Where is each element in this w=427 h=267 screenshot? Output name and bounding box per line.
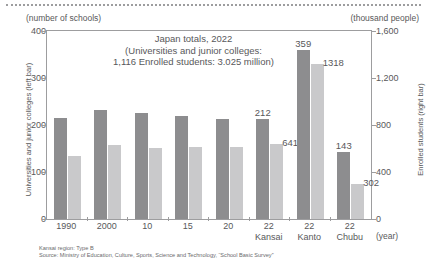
x-axis-label: 22Kansai (249, 221, 290, 243)
x-axis-label: 1990 (46, 221, 87, 232)
right-axis-unit-label: (thousand people) (350, 13, 419, 23)
x-axis-label: 10 (127, 221, 168, 232)
right-axis-tick-label: 0 (376, 214, 381, 224)
x-axis-label-year: 1990 (56, 221, 76, 231)
bar-universities[interactable] (135, 113, 148, 219)
x-axis-label-region: Kansai (249, 232, 290, 243)
chart-footnotes: Kansai region: Type B Source: Ministry o… (39, 245, 274, 259)
left-axis-tick-mark (42, 125, 46, 126)
bar-enrolled-students[interactable] (189, 147, 202, 219)
left-axis-unit-label: (number of schools) (26, 13, 101, 23)
bar-group (169, 31, 210, 219)
bar-group: 3591318 (290, 31, 331, 219)
bar-group (128, 31, 169, 219)
x-axis-unit-label: (year) (376, 231, 398, 241)
right-axis-tick-mark (372, 219, 376, 220)
bar-group (209, 31, 250, 219)
left-axis-title: Universities and junior colleges (left b… (24, 55, 33, 205)
x-axis-label: 22Kanto (289, 221, 330, 243)
bar-value-label-enrolled-students: 302 (363, 177, 393, 188)
bar-group: 212641 (250, 31, 291, 219)
bar-universities[interactable] (337, 152, 350, 219)
bars-layer: 2126413591318143302 (47, 31, 371, 219)
x-axis-tick-mark (330, 217, 331, 221)
x-axis-tick-mark (87, 217, 88, 221)
bar-value-label-universities: 359 (290, 38, 317, 49)
right-axis-title: Enrolled students (right bar) (416, 55, 425, 205)
x-axis-label-region: Kanto (289, 232, 330, 243)
right-axis-tick-label: 400 (376, 167, 391, 177)
x-axis-tick-mark (127, 217, 128, 221)
left-axis-tick-mark (42, 31, 46, 32)
x-axis-label-year: 22 (304, 221, 314, 231)
bar-universities[interactable] (175, 116, 188, 219)
bar-enrolled-students[interactable] (311, 64, 324, 219)
bar-group (47, 31, 88, 219)
right-axis-tick-label: 1,600 (376, 26, 399, 36)
right-axis-tick-label: 1,200 (376, 73, 399, 83)
right-axis-tick-mark (372, 31, 376, 32)
bar-enrolled-students[interactable] (230, 147, 243, 219)
right-axis-tick-label: 800 (376, 120, 391, 130)
x-axis-label: 22Chubu (330, 221, 371, 243)
x-axis-label-year: 22 (345, 221, 355, 231)
x-axis-tick-mark (208, 217, 209, 221)
bar-universities[interactable] (216, 119, 229, 219)
bar-group (88, 31, 129, 219)
x-axis-label-year: 20 (223, 221, 233, 231)
x-axis-label-year: 2000 (97, 221, 117, 231)
bar-universities[interactable] (94, 110, 107, 219)
x-axis-label-year: 15 (183, 221, 193, 231)
bar-value-label-universities: 212 (249, 107, 276, 118)
right-axis-tick-mark (372, 125, 376, 126)
footnote-kansai-type: Kansai region: Type B (39, 245, 274, 252)
left-axis-tick-mark (42, 78, 46, 79)
right-axis-tick-mark (372, 78, 376, 79)
bar-universities[interactable] (256, 119, 269, 219)
x-axis-label: 15 (168, 221, 209, 232)
bar-enrolled-students[interactable] (270, 144, 283, 219)
x-axis-label-region: Chubu (330, 232, 371, 243)
x-axis-tick-mark (249, 217, 250, 221)
bar-value-label-universities: 143 (330, 140, 357, 151)
top-dotted-divider (6, 4, 421, 6)
bar-enrolled-students[interactable] (351, 184, 364, 219)
x-axis-label: 2000 (87, 221, 128, 232)
x-axis-label-year: 10 (142, 221, 152, 231)
x-axis-label-year: 22 (264, 221, 274, 231)
footnote-source: Source: Ministry of Education, Culture, … (39, 252, 274, 259)
bar-universities[interactable] (54, 118, 67, 219)
left-axis-tick-mark (42, 219, 46, 220)
right-axis-tick-mark (372, 172, 376, 173)
bar-universities[interactable] (297, 50, 310, 219)
left-axis-tick-mark (42, 172, 46, 173)
x-axis-label: 20 (208, 221, 249, 232)
bar-group: 143302 (331, 31, 372, 219)
chart-figure: (number of schools) (thousand people) 01… (0, 0, 427, 267)
x-axis-tick-mark (168, 217, 169, 221)
bar-enrolled-students[interactable] (149, 148, 162, 219)
x-axis-tick-mark (289, 217, 290, 221)
bar-enrolled-students[interactable] (108, 145, 121, 219)
bar-enrolled-students[interactable] (68, 156, 81, 219)
